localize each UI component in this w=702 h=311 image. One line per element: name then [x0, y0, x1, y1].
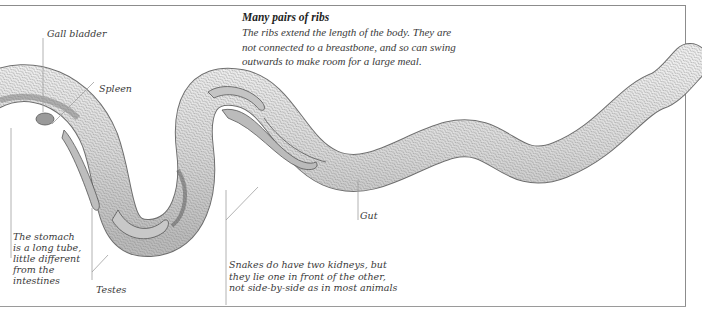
kidneys-line: they lie one in front of the other,: [229, 271, 397, 283]
stomach-line: from the: [13, 264, 81, 275]
stomach-line: is a long tube,: [13, 242, 81, 253]
figure-caption: The ribs extend the length of the body. …: [242, 25, 532, 69]
kidneys-line: Snakes do have two kidneys, but: [229, 259, 397, 271]
label-testes: Testes: [96, 284, 126, 296]
gall-bladder-organ: [36, 113, 54, 125]
figure-heading: Many pairs of ribs: [242, 11, 329, 23]
stomach-line: little different: [13, 253, 81, 264]
label-gall-bladder: Gall bladder: [47, 28, 106, 40]
label-kidneys: Snakes do have two kidneys, but they lie…: [229, 259, 397, 294]
label-spleen: Spleen: [99, 83, 132, 95]
diagram-frame: Gall bladder Spleen Gut Testes The stoma…: [0, 0, 702, 311]
caption-line: outwards to make room for a large meal.: [242, 54, 532, 69]
caption-line: The ribs extend the length of the body. …: [242, 25, 532, 40]
label-gut: Gut: [360, 210, 378, 222]
stomach-line: The stomach: [13, 231, 81, 242]
caption-line: not connected to a breastbone, and so ca…: [242, 40, 532, 55]
label-stomach: The stomach is a long tube, little diffe…: [13, 231, 81, 286]
stomach-line: intestines: [13, 275, 81, 286]
kidneys-line: not side-by-side as in most animals: [229, 282, 397, 294]
